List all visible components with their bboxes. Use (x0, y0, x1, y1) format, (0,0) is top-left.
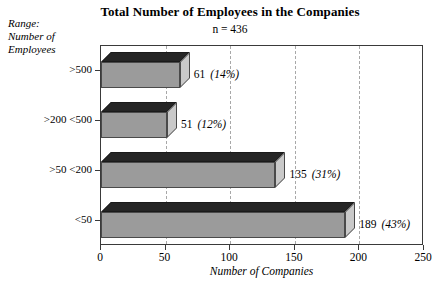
x-axis-tick-250 (423, 245, 424, 250)
bar (101, 202, 355, 238)
bar-front-face (101, 62, 180, 88)
x-axis-tick-50 (165, 245, 166, 250)
bar-top-face (101, 102, 177, 112)
x-axis-label-0: 0 (80, 251, 120, 263)
bar-value-label: 189(43%) (359, 218, 410, 230)
y-axis-caption: Range: Number of Employees (8, 17, 94, 56)
x-axis-tick-100 (229, 245, 230, 250)
y-axis-label: >50 <200 (49, 163, 92, 175)
y-axis-tick (95, 170, 100, 171)
bar-value-label: 51(12%) (181, 118, 226, 130)
bar-value: 51 (181, 118, 193, 130)
chart-container: Total Number of Employees in the Compani… (0, 0, 444, 288)
bar (101, 52, 190, 88)
y-axis-tick (95, 120, 100, 121)
y-axis-tick (95, 70, 100, 71)
bar (101, 102, 177, 138)
x-axis-tick-0 (100, 245, 101, 250)
bar-percent: (14%) (210, 68, 239, 80)
y-axis-caption-line-2: Number of (8, 30, 94, 43)
bar-top-face (101, 202, 355, 212)
y-axis-caption-line-3: Employees (8, 43, 94, 56)
x-axis-title: Number of Companies (100, 265, 423, 277)
x-axis-label-150: 150 (274, 251, 314, 263)
bar (101, 152, 285, 188)
y-axis-label: >500 (69, 63, 92, 75)
x-axis-label-250: 250 (403, 251, 443, 263)
x-axis-tick-200 (358, 245, 359, 250)
bar-percent: (12%) (197, 118, 226, 130)
y-axis-caption-line-1: Range: (8, 17, 94, 30)
y-axis-label: >200 <500 (44, 113, 92, 125)
plot-area: 61(14%)51(12%)135(31%)189(43%) (100, 45, 423, 245)
bar-value-label: 135(31%) (289, 168, 340, 180)
x-axis-label-200: 200 (338, 251, 378, 263)
chart-subtitle: n = 436 (70, 23, 390, 35)
gridline-200 (359, 46, 360, 244)
bar-top-face (101, 152, 285, 162)
bar-value: 189 (359, 218, 376, 230)
x-axis-label-50: 50 (145, 251, 185, 263)
chart-title: Total Number of Employees in the Compani… (70, 4, 390, 20)
bar-value: 61 (194, 68, 206, 80)
x-axis-tick-150 (294, 245, 295, 250)
bar-top-face (101, 52, 190, 62)
bar-value: 135 (289, 168, 306, 180)
x-axis-label-100: 100 (209, 251, 249, 263)
plot-inner: 61(14%)51(12%)135(31%)189(43%) (101, 46, 422, 244)
bar-front-face (101, 212, 345, 238)
bar-front-face (101, 112, 167, 138)
y-axis-label: <50 (75, 213, 92, 225)
bar-percent: (43%) (381, 218, 410, 230)
bar-front-face (101, 162, 275, 188)
bar-percent: (31%) (312, 168, 341, 180)
bar-value-label: 61(14%) (194, 68, 239, 80)
y-axis-tick (95, 220, 100, 221)
